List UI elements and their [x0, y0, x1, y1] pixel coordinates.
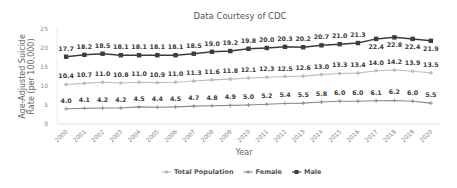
- total-population-data-label: 11.6: [204, 68, 220, 75]
- total-population-data-label: 13.0: [314, 63, 330, 70]
- male-point: [301, 45, 305, 49]
- y-axis-label-line: Age-Adjusted Suicide: [18, 34, 27, 119]
- total-population-data-label: 13.3: [332, 61, 348, 68]
- male-data-label: 18.2: [77, 43, 93, 50]
- x-tick-label: 2019: [400, 128, 416, 144]
- female-point: [64, 107, 68, 111]
- male-data-label: 18.1: [113, 43, 129, 50]
- female-point: [374, 99, 378, 103]
- total-population-point: [156, 81, 160, 85]
- y-tick-label: 20: [40, 44, 48, 51]
- male-point: [119, 53, 123, 57]
- legend-marker: [294, 170, 298, 174]
- legend-label: Total Population: [174, 168, 234, 176]
- female-point: [192, 104, 196, 108]
- total-population-point: [283, 75, 287, 79]
- x-tick-label: 2016: [345, 128, 361, 144]
- y-axis-label-line: Rate (per 100,000): [27, 38, 36, 114]
- total-population-point: [393, 68, 397, 72]
- male-point: [64, 55, 68, 59]
- x-tick-label: 2018: [381, 128, 397, 144]
- female-point: [265, 102, 269, 106]
- x-tick-label: 2000: [53, 128, 69, 144]
- female-data-label: 6.2: [389, 88, 400, 95]
- total-population-point: [119, 81, 123, 85]
- male-data-label: 20.2: [295, 35, 311, 42]
- total-population-point: [429, 71, 433, 75]
- male-point: [82, 53, 86, 57]
- suicide-rate-line-chart: Data Courtesy of CDC Age-Adjusted Suicid…: [0, 0, 457, 188]
- male-point: [265, 46, 269, 50]
- y-axis-label: Age-Adjusted SuicideRate (per 100,000): [18, 34, 36, 119]
- x-tick-label: 2017: [363, 128, 379, 144]
- female-data-label: 5.0: [243, 93, 255, 100]
- female-point: [174, 105, 178, 109]
- female-data-label: 5.4: [279, 91, 291, 98]
- total-population-point: [64, 83, 68, 87]
- total-population-data-label: 12.1: [241, 66, 257, 73]
- male-point: [374, 37, 378, 41]
- total-population-point: [83, 82, 87, 86]
- male-data-label: 18.1: [150, 43, 166, 50]
- male-point: [192, 52, 196, 56]
- male-point: [392, 35, 396, 39]
- male-data-label: 22.8: [387, 41, 403, 48]
- total-population-data-label: 12.6: [295, 64, 311, 71]
- x-tick-label: 2015: [327, 128, 343, 144]
- male-data-label: 21.3: [350, 31, 366, 38]
- x-tick-label: 2004: [126, 128, 142, 144]
- male-data-label: 20.7: [314, 33, 330, 40]
- male-data-label: 18.5: [95, 42, 111, 49]
- total-population-data-label: 11.0: [131, 70, 147, 77]
- chart-title: Data Courtesy of CDC: [193, 11, 286, 21]
- x-tick-label: 2011: [254, 128, 270, 144]
- male-data-label: 18.1: [131, 43, 147, 50]
- y-tick-label: 0: [44, 120, 48, 127]
- legend-label: Female: [256, 168, 283, 176]
- series-group: 10.410.711.010.811.010.911.011.311.611.8…: [58, 31, 438, 111]
- legend-label: Male: [304, 168, 322, 176]
- total-population-data-label: 14.2: [387, 58, 403, 65]
- female-point: [319, 100, 323, 104]
- total-population-data-label: 11.3: [186, 69, 202, 76]
- male-point: [173, 53, 177, 57]
- total-population-data-label: 14.0: [368, 59, 384, 66]
- male-point: [210, 50, 214, 54]
- female-data-label: 5.5: [425, 91, 436, 98]
- female-point: [101, 106, 105, 110]
- x-axis-ticks: 2000200120022003200420052006200720082009…: [53, 128, 434, 144]
- total-population-data-label: 10.7: [77, 71, 93, 78]
- male-data-label: 22.4: [368, 43, 384, 50]
- x-tick-label: 2005: [144, 128, 160, 144]
- female-point: [338, 99, 342, 103]
- female-data-label: 4.1: [79, 96, 90, 103]
- total-population-data-label: 10.9: [150, 71, 166, 78]
- female-data-label: 4.8: [206, 94, 217, 101]
- y-tick-label: 10: [40, 82, 48, 89]
- total-population-point: [192, 79, 196, 83]
- female-data-label: 6.0: [334, 89, 346, 96]
- male-point: [410, 37, 414, 41]
- total-population-data-label: 11.0: [168, 70, 184, 77]
- total-population-data-label: 13.5: [423, 61, 439, 68]
- male-point: [319, 43, 323, 47]
- total-population-point: [338, 72, 342, 76]
- male-point: [356, 41, 360, 45]
- male-data-label: 20.3: [277, 35, 293, 42]
- female-point: [155, 105, 159, 109]
- x-tick-label: 2003: [108, 128, 124, 144]
- female-data-label: 4.5: [170, 95, 181, 102]
- female-data-label: 4.2: [97, 96, 108, 103]
- female-data-label: 6.0: [352, 89, 364, 96]
- male-data-label: 20.0: [259, 36, 275, 43]
- male-data-label: 21.0: [332, 32, 348, 39]
- male-point: [228, 49, 232, 53]
- series-female: 4.04.14.24.24.54.44.54.74.84.95.05.25.45…: [61, 88, 437, 110]
- female-point: [137, 105, 141, 109]
- male-data-label: 22.4: [405, 43, 421, 50]
- legend: Total PopulationFemaleMale: [162, 168, 322, 176]
- legend-item-female: Female: [244, 168, 283, 176]
- female-point: [392, 98, 396, 102]
- total-population-point: [411, 69, 415, 73]
- x-tick-label: 2009: [217, 128, 233, 144]
